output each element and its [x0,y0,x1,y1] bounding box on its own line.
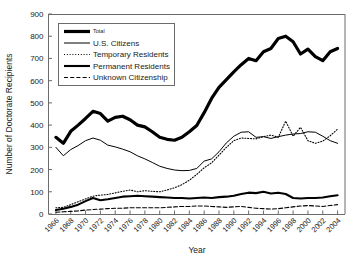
chart-container: 0100200300400500600700800900 19661968197… [0,0,358,258]
y-tick-label: 400 [30,121,44,130]
y-tick-label: 0 [39,210,44,219]
legend-label-u-s-citizens: U.S. Citizens [93,39,139,48]
y-tick-label: 300 [30,143,44,152]
x-axis-title: Year [188,245,205,255]
legend-label-permanent-residents: Permanent Residents [93,62,170,71]
y-tick-label: 700 [30,54,44,63]
y-tick-label: 200 [30,166,44,175]
legend-label-unknown-citizenship: Unknown Citizenship [93,73,168,82]
chart-legend: TotalU.S. CitizensTemporary ResidentsPer… [59,24,175,86]
legend-label-temporary-residents: Temporary Residents [93,50,169,59]
doctorate-recipients-line-chart: 0100200300400500600700800900 19661968197… [0,0,358,258]
legend-label-total: Total [93,28,105,34]
y-tick-label: 600 [30,77,44,86]
y-axis-title: Number of Doctorate Recipients [4,54,14,175]
y-tick-label: 800 [30,32,44,41]
y-tick-label: 900 [30,10,44,19]
y-tick-label: 100 [30,188,44,197]
y-tick-label: 500 [30,99,44,108]
